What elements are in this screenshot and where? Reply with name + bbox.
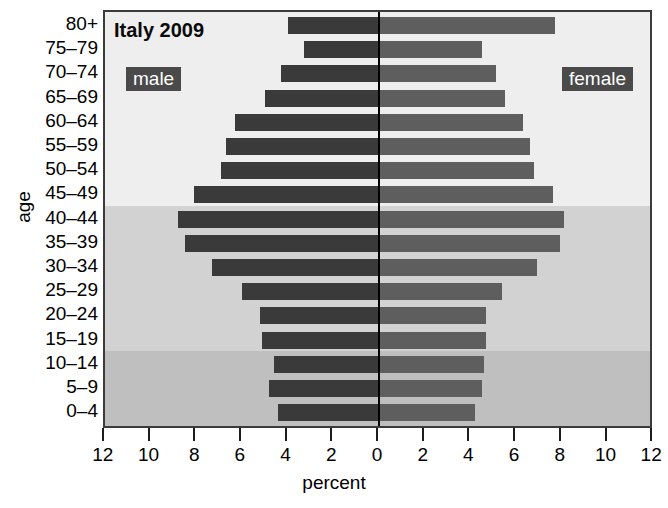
bar-male-60-64 <box>235 114 379 131</box>
bar-female-60-64 <box>379 114 523 131</box>
y-tick-30-34: 30–34 <box>22 256 98 275</box>
x-tick-mark <box>559 428 561 441</box>
y-tick-70-74: 70–74 <box>22 62 98 81</box>
y-tick-75-79: 75–79 <box>22 38 98 57</box>
bar-male-30-34 <box>212 259 379 276</box>
x-tick-mark <box>422 428 424 441</box>
zero-axis-line <box>378 12 380 426</box>
x-tick-mark <box>376 428 378 441</box>
x-tick-label: 4 <box>448 444 488 466</box>
y-tick-80+: 80+ <box>22 14 98 33</box>
bar-male-75-79 <box>304 41 379 58</box>
bar-male-35-39 <box>185 235 379 252</box>
bar-female-50-54 <box>379 162 534 179</box>
y-tick-25-29: 25–29 <box>22 280 98 299</box>
y-tick-35-39: 35–39 <box>22 232 98 251</box>
x-tick-label: 2 <box>403 444 443 466</box>
bar-female-0-4 <box>379 404 475 421</box>
bar-female-40-44 <box>379 211 564 228</box>
bar-female-10-14 <box>379 356 484 373</box>
y-tick-15-19: 15–19 <box>22 329 98 348</box>
legend-female: female <box>562 67 633 91</box>
y-tick-50-54: 50–54 <box>22 159 98 178</box>
bar-male-65-69 <box>265 90 379 107</box>
x-tick-label: 2 <box>311 444 351 466</box>
bar-female-5-9 <box>379 380 482 397</box>
bar-male-55-59 <box>226 138 379 155</box>
y-tick-5-9: 5–9 <box>22 377 98 396</box>
x-tick-label: 10 <box>586 444 626 466</box>
x-tick-label: 12 <box>83 444 123 466</box>
x-tick-label: 6 <box>494 444 534 466</box>
x-tick-mark <box>148 428 150 441</box>
bar-male-0-4 <box>278 404 379 421</box>
x-tick-label: 12 <box>631 444 668 466</box>
bar-female-55-59 <box>379 138 530 155</box>
x-tick-label: 0 <box>357 444 397 466</box>
y-tick-10-14: 10–14 <box>22 353 98 372</box>
y-tick-65-69: 65–69 <box>22 87 98 106</box>
x-tick-mark <box>467 428 469 441</box>
x-tick-mark <box>650 428 652 441</box>
bar-male-45-49 <box>194 186 379 203</box>
bar-female-75-79 <box>379 41 482 58</box>
y-tick-55-59: 55–59 <box>22 135 98 154</box>
x-tick-label: 6 <box>220 444 260 466</box>
bar-female-70-74 <box>379 65 496 82</box>
x-tick-mark <box>513 428 515 441</box>
bar-female-65-69 <box>379 90 505 107</box>
bar-male-70-74 <box>281 65 379 82</box>
chart-title: Italy 2009 <box>114 19 204 42</box>
x-tick-label: 8 <box>540 444 580 466</box>
x-tick-mark <box>239 428 241 441</box>
bar-female-20-24 <box>379 307 486 324</box>
bar-male-80+ <box>288 17 379 34</box>
y-tick-40-44: 40–44 <box>22 208 98 227</box>
x-tick-label: 10 <box>129 444 169 466</box>
x-axis: 12108642024681012 <box>103 428 652 429</box>
bar-male-20-24 <box>260 307 379 324</box>
bar-female-15-19 <box>379 332 486 349</box>
bar-female-35-39 <box>379 235 560 252</box>
bar-female-25-29 <box>379 283 502 300</box>
population-pyramid-chart: age 80+75–7970–7465–6960–6455–5950–5445–… <box>0 0 668 508</box>
x-tick-label: 4 <box>266 444 306 466</box>
y-tick-60-64: 60–64 <box>22 111 98 130</box>
y-tick-0-4: 0–4 <box>22 401 98 420</box>
x-tick-mark <box>102 428 104 441</box>
bar-female-80+ <box>379 17 555 34</box>
bar-male-5-9 <box>269 380 379 397</box>
x-tick-mark <box>285 428 287 441</box>
bar-male-50-54 <box>221 162 379 179</box>
x-tick-mark <box>193 428 195 441</box>
bar-male-15-19 <box>262 332 379 349</box>
bar-male-40-44 <box>178 211 379 228</box>
x-tick-mark <box>605 428 607 441</box>
y-tick-20-24: 20–24 <box>22 304 98 323</box>
x-tick-label: 8 <box>174 444 214 466</box>
bar-female-30-34 <box>379 259 537 276</box>
y-axis-tick-labels: 80+75–7970–7465–6960–6455–5950–5445–4940… <box>22 10 98 428</box>
x-axis-title: percent <box>0 472 668 494</box>
bar-female-45-49 <box>379 186 553 203</box>
legend-male: male <box>126 67 181 91</box>
x-tick-mark <box>330 428 332 441</box>
plot-area: Italy 2009 male female <box>103 10 652 428</box>
y-tick-45-49: 45–49 <box>22 183 98 202</box>
bar-male-10-14 <box>274 356 379 373</box>
bar-male-25-29 <box>242 283 379 300</box>
